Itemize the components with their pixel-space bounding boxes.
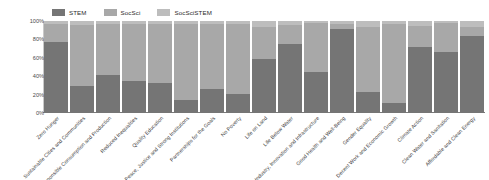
legend-swatch-icon (157, 9, 170, 16)
legend-swatch-icon (52, 9, 65, 16)
legend-item-socsci[interactable]: SocSci (104, 9, 141, 16)
bar-segment-socsci (174, 24, 198, 100)
bar-segment-stem (356, 92, 380, 113)
bar-segment-socsci (226, 24, 250, 94)
bar-column[interactable] (304, 21, 328, 113)
legend-label: SocSci (121, 9, 141, 16)
legend-label: SocSciSTEM (174, 9, 211, 16)
bar-segment-socsci (460, 27, 484, 35)
x-axis-label: Life on Land (243, 115, 268, 140)
bar-segment-socsci (252, 27, 276, 59)
bar-column[interactable] (434, 21, 458, 113)
bar-column[interactable] (408, 21, 432, 113)
bar-segment-stem (174, 100, 198, 113)
bar-segment-socsci (278, 25, 302, 44)
chart-legend: STEMSocSciSocSciSTEM (52, 6, 212, 18)
bar-segment-stem (70, 86, 94, 113)
bar-segment-stem (434, 52, 458, 113)
bar-column[interactable] (330, 21, 354, 113)
x-axis-label: Affordable and Clean Energy (424, 115, 476, 167)
bar-column[interactable] (382, 21, 406, 113)
bar-segment-stem (252, 59, 276, 113)
bar-column[interactable] (122, 21, 146, 113)
bar-column[interactable] (278, 21, 302, 113)
bar-segment-socsci (434, 23, 458, 52)
bar-segment-stem (330, 29, 354, 113)
bar-column[interactable] (226, 21, 250, 113)
bar-segment-socsci (122, 24, 146, 81)
bar-segment-socsci (408, 26, 432, 47)
bar-segment-socsci (200, 24, 224, 89)
bar-series-group (43, 21, 485, 113)
x-axis-label: Clean Water and Sanitation (400, 115, 450, 165)
x-axis-label: Partnerships for the Goals (168, 115, 216, 163)
bar-segment-stem (304, 72, 328, 113)
bar-segment-socsci (356, 27, 380, 92)
bar-column[interactable] (44, 21, 68, 113)
bar-column[interactable] (356, 21, 380, 113)
bar-column[interactable] (252, 21, 276, 113)
x-axis-label: No Poverty (219, 115, 242, 138)
bar-segment-stem (460, 36, 484, 113)
legend-item-socscistem[interactable]: SocSciSTEM (157, 9, 211, 16)
x-axis-label: Climate Action (396, 115, 424, 143)
bar-segment-stem (278, 44, 302, 113)
bar-column[interactable] (200, 21, 224, 113)
bar-segment-stem (226, 94, 250, 113)
x-axis-labels: Zero HungerSustainable Cities and Commun… (43, 113, 485, 179)
bar-segment-stem (200, 89, 224, 113)
bar-segment-socsci (44, 24, 68, 42)
bar-column[interactable] (148, 21, 172, 113)
bar-segment-stem (148, 83, 172, 113)
bar-segment-socsci (148, 24, 172, 83)
bar-segment-socsci (96, 24, 120, 76)
bar-segment-stem (96, 75, 120, 113)
stacked-bar-chart: STEMSocSciSocSciSTEM 100%80%60%40%20%0% … (0, 0, 489, 180)
plot-area (43, 21, 485, 113)
bar-segment-stem (122, 81, 146, 113)
x-axis-label: Zero Hunger (35, 115, 60, 140)
bar-segment-socsci (70, 25, 94, 87)
bar-column[interactable] (96, 21, 120, 113)
bar-column[interactable] (174, 21, 198, 113)
bar-segment-socsci (382, 24, 406, 103)
bar-segment-stem (408, 47, 432, 113)
bar-column[interactable] (70, 21, 94, 113)
legend-item-stem[interactable]: STEM (52, 9, 87, 16)
x-axis-label: Good Health and Well-Being (295, 115, 347, 167)
bar-segment-stem (382, 103, 406, 113)
bar-column[interactable] (460, 21, 484, 113)
bar-segment-socsci (304, 23, 328, 72)
legend-swatch-icon (104, 9, 117, 16)
legend-label: STEM (69, 9, 87, 16)
bar-segment-stem (44, 42, 68, 113)
